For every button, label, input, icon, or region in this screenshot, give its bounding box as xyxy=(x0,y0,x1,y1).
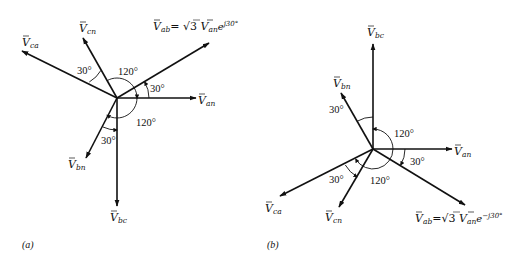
vector-label-vab: Vab=√3 Vane−j30° xyxy=(415,212,503,226)
vector-label-vca: Vca xyxy=(265,202,282,216)
arc-30-van-vab-icon xyxy=(145,82,149,98)
vector-label-vab: Vab= √3 Vanej30° xyxy=(153,20,238,34)
vector-label-vca: Vca xyxy=(22,36,39,50)
phasor-diagram-canvas: 30°120°120°30°30° VanVab= √3 Vanej30°Vcn… xyxy=(0,0,514,265)
vector-label-vcn: Vcn xyxy=(325,211,342,225)
angle-label: 30° xyxy=(77,65,92,76)
arc-120-lower-b-icon xyxy=(356,149,393,169)
angle-label: 30° xyxy=(329,174,344,185)
panel-caption-a: (a) xyxy=(22,239,34,251)
angle-labels-b: 30°120°30°120°30° xyxy=(329,104,425,186)
arc-30-van-vab-b-icon xyxy=(401,149,405,165)
panel-b: 30°120°30°120°30° VanVab=√3 Vane−j30°Vbc… xyxy=(265,26,503,251)
angle-label: 120° xyxy=(394,128,414,139)
vector-label-vcn: Vcn xyxy=(79,22,96,36)
vector-label-vbc: Vbc xyxy=(367,26,385,40)
angle-label: 120° xyxy=(136,117,156,128)
arc-30-vbn-vbc-b-icon xyxy=(357,117,373,121)
vector-label-vbc: Vbc xyxy=(110,211,128,225)
angle-label: 30° xyxy=(329,104,344,115)
panel-caption-b: (b) xyxy=(267,239,279,251)
arc-30-vca-vcn-b-icon xyxy=(345,165,357,177)
arc-120-upper-b-icon xyxy=(373,129,393,149)
angle-arcs-b xyxy=(345,117,405,177)
angle-label: 30° xyxy=(410,156,425,167)
angle-label: 30° xyxy=(150,83,165,94)
vector-group-a xyxy=(22,38,209,206)
panel-a: 30°120°120°30°30° VanVab= √3 Vanej30°Vcn… xyxy=(22,20,238,251)
vector-label-van: Van xyxy=(198,94,215,108)
vector-labels-a: VanVab= √3 Vanej30°VcnVcaVbnVbc xyxy=(22,20,238,225)
vector-labels-b: VanVab=√3 Vane−j30°VbcVbnVcaVcn xyxy=(265,26,503,226)
angle-label: 120° xyxy=(118,66,138,77)
vector-label-vbn: Vbn xyxy=(68,158,86,172)
angle-label: 30° xyxy=(101,135,116,146)
angle-label: 120° xyxy=(370,175,390,186)
vector-label-van: Van xyxy=(454,145,471,159)
arc-30-vbn-vbc-icon xyxy=(103,127,117,130)
phasor-arrow-vca xyxy=(22,51,117,98)
phasor-arrow-vbn xyxy=(86,98,117,158)
vector-label-vbn: Vbn xyxy=(333,77,351,91)
